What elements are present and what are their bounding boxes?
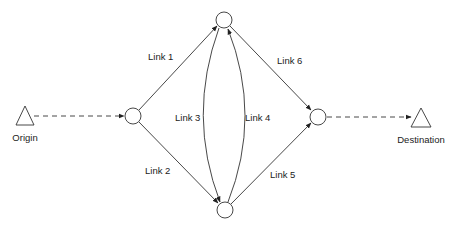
network-diagram: Origin Destination Link 1 Link 2 Link 3 … <box>0 0 462 230</box>
link-1-edge <box>139 26 217 110</box>
origin-triangle-icon <box>16 106 34 125</box>
destination-label: Destination <box>397 134 445 145</box>
origin-label: Origin <box>12 132 37 143</box>
link-6-label: Link 6 <box>277 55 302 66</box>
link-3-edge <box>203 28 220 202</box>
link-2-label: Link 2 <box>145 165 170 176</box>
node-right <box>310 109 326 125</box>
link-2-edge <box>139 122 218 203</box>
link-4-edge <box>228 29 245 202</box>
link-6-edge <box>230 26 311 110</box>
link-1-label: Link 1 <box>148 51 173 62</box>
destination-triangle-icon <box>411 108 431 127</box>
link-5-edge <box>231 123 311 204</box>
link-4-label: Link 4 <box>245 112 270 123</box>
node-top <box>216 12 232 28</box>
node-bottom <box>217 202 233 218</box>
node-left <box>125 108 141 124</box>
link-3-label: Link 3 <box>175 112 200 123</box>
link-5-label: Link 5 <box>270 169 295 180</box>
